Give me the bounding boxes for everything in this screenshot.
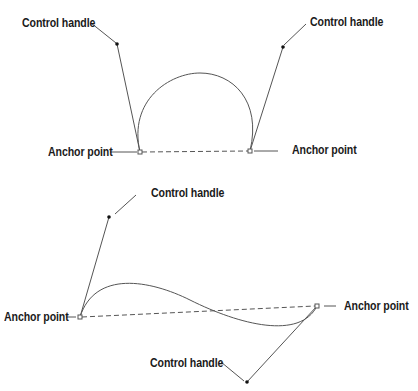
anchor-point-marker — [248, 149, 252, 153]
label-control-handle-top-left: Control handle — [22, 16, 95, 30]
dashed-baseline — [82, 306, 315, 317]
label-control-handle-top-right: Control handle — [310, 15, 383, 29]
top-figure — [91, 23, 306, 154]
leader-line — [221, 362, 244, 381]
bezier-diagram: Control handle Control handle Anchor poi… — [0, 0, 418, 391]
label-anchor-point-bottom-left: Anchor point — [4, 310, 69, 324]
anchor-point-marker — [138, 150, 142, 154]
label-anchor-point-top-left: Anchor point — [48, 145, 113, 159]
control-handle-dot — [281, 45, 285, 49]
control-handle-line — [117, 44, 140, 152]
control-handle-line — [250, 47, 283, 151]
control-handle-dot — [115, 42, 119, 46]
control-handle-dot — [107, 215, 111, 219]
control-handle-line — [247, 306, 317, 382]
control-handle-line — [80, 217, 109, 317]
leader-line — [284, 24, 306, 45]
control-handle-dot — [245, 380, 249, 384]
bezier-curve — [80, 283, 317, 325]
label-anchor-point-bottom-right: Anchor point — [344, 299, 409, 313]
anchor-point-marker — [78, 315, 82, 319]
label-control-handle-bottom-top: Control handle — [151, 186, 224, 200]
label-control-handle-bottom-bottom: Control handle — [150, 356, 223, 370]
anchor-point-marker — [315, 304, 319, 308]
dashed-baseline — [142, 151, 248, 152]
leader-line — [115, 195, 136, 214]
label-anchor-point-top-right: Anchor point — [292, 143, 357, 157]
bezier-curve — [138, 73, 253, 152]
